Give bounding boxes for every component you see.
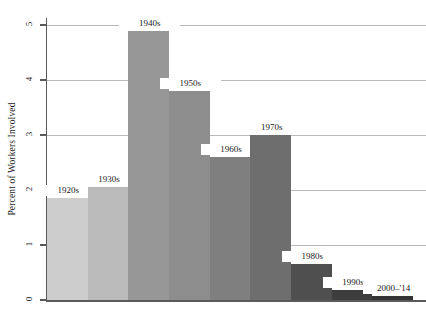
bar (372, 296, 413, 300)
bar-label: 1980s (282, 251, 343, 262)
bar-label: 1940s (119, 18, 180, 29)
bar (128, 31, 169, 301)
bar (88, 187, 129, 300)
bar-label: 1950s (160, 78, 221, 89)
bar (47, 198, 88, 300)
bar (250, 135, 291, 300)
bar-label: 2000–'14 (363, 283, 424, 294)
bar-chart: Percent of Workers Involved 012345 1920s… (0, 0, 426, 317)
bars-container: 1920s1930s1940s1950s1960s1970s1980s1990s… (0, 0, 426, 317)
bar (169, 91, 210, 300)
bar-label: 1970s (241, 122, 302, 133)
bar (210, 157, 251, 300)
